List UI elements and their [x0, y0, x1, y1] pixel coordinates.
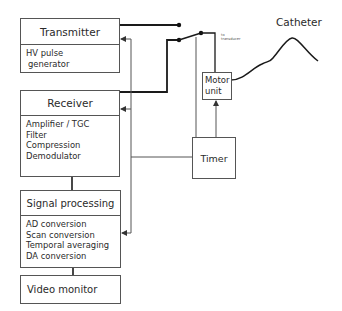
- signal-processing-item: AD conversion: [26, 219, 120, 230]
- signal-processing-item: Temporal averaging: [26, 240, 120, 251]
- receiver-block: Receiver Amplifier / TGC Filter Compress…: [20, 90, 120, 177]
- receiver-item: Filter: [26, 130, 119, 141]
- timer-block: Timer: [192, 137, 236, 179]
- motor-unit-title-line2: unit: [205, 86, 231, 97]
- catheter-curve: [231, 38, 318, 80]
- signal-processing-item: DA conversion: [26, 251, 120, 262]
- receiver-item: Amplifier / TGC: [26, 119, 119, 130]
- signal-processing-item: Scan conversion: [26, 230, 120, 241]
- signal-processing-items: AD conversion Scan conversion Temporal a…: [21, 216, 120, 261]
- video-monitor-block: Video monitor: [20, 275, 121, 304]
- transmitter-item: HV pulse: [26, 48, 119, 59]
- receiver-title: Receiver: [21, 91, 119, 116]
- motor-unit-title-line1: Motor: [205, 75, 231, 86]
- receiver-items: Amplifier / TGC Filter Compression Demod…: [21, 116, 119, 161]
- receiver-item: Compression: [26, 140, 119, 151]
- signal-processing-title: Signal processing: [21, 191, 120, 216]
- transmitter-items: HV pulse generator: [21, 45, 119, 69]
- transmitter-item: generator: [26, 59, 119, 70]
- transmitter-title: Transmitter: [21, 19, 119, 45]
- video-monitor-title: Video monitor: [21, 276, 120, 303]
- motor-unit-block: Motor unit: [202, 72, 232, 100]
- catheter-label: Catheter: [276, 16, 322, 28]
- transmitter-block: Transmitter HV pulse generator: [20, 18, 120, 73]
- to-transducer-line2: transducer: [221, 37, 240, 41]
- timer-title: Timer: [200, 153, 227, 164]
- signal-processing-block: Signal processing AD conversion Scan con…: [20, 190, 121, 268]
- receiver-item: Demodulator: [26, 151, 119, 162]
- to-transducer-label: to transducer: [221, 33, 240, 41]
